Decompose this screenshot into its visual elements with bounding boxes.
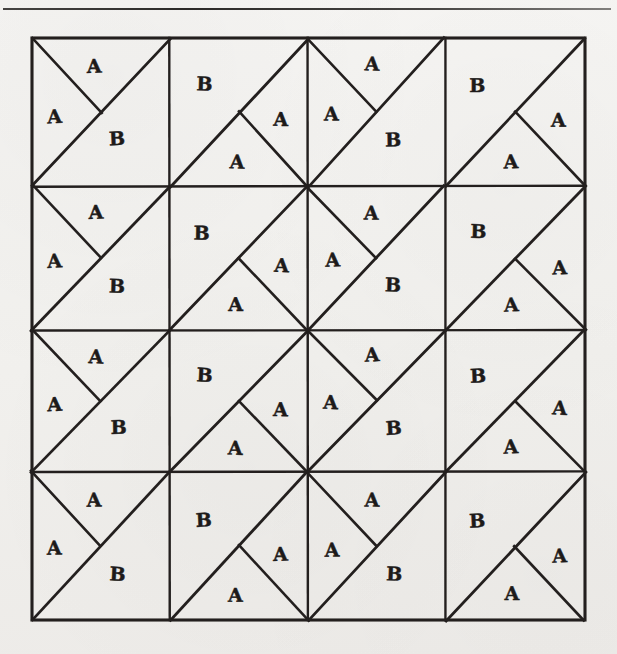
tile-spur xyxy=(515,259,586,330)
region-label-b: B xyxy=(196,363,213,386)
region-label-a: A xyxy=(550,109,566,131)
region-label-a: A xyxy=(551,256,568,279)
region-label-a: A xyxy=(323,102,339,124)
region-label-b: B xyxy=(109,274,126,296)
region-label-a: A xyxy=(324,248,341,270)
region-label-b: B xyxy=(386,562,403,585)
region-label-a: A xyxy=(502,435,519,458)
region-label-a: A xyxy=(87,201,104,223)
region-label-a: A xyxy=(227,436,244,458)
region-label-a: A xyxy=(504,582,520,604)
tile-spur xyxy=(239,258,308,331)
region-label-a: A xyxy=(227,584,243,606)
region-label-b: B xyxy=(195,508,212,531)
tile-spur xyxy=(307,38,376,111)
region-label-a: A xyxy=(363,343,380,366)
region-label-b: B xyxy=(470,220,487,242)
region-label-a: A xyxy=(85,489,101,511)
region-label-a: A xyxy=(502,150,519,172)
grid-line-horizontal xyxy=(32,471,585,472)
tiling-diagram: AABBAAAABBAAAABBAAAABBAAAABBAAAABBAAAABB… xyxy=(0,0,617,654)
region-label-b: B xyxy=(469,74,485,96)
region-label-a: A xyxy=(85,55,102,77)
region-label-b: B xyxy=(385,416,402,439)
region-label-a: A xyxy=(551,544,568,567)
region-label-a: A xyxy=(363,201,380,223)
region-label-a: A xyxy=(87,345,104,368)
region-label-b: B xyxy=(469,509,486,532)
region-label-a: A xyxy=(272,398,288,420)
region-label-a: A xyxy=(323,539,339,561)
region-label-a: A xyxy=(322,391,339,413)
region-label-a: A xyxy=(502,293,519,316)
region-label-b: B xyxy=(110,416,126,438)
region-label-a: A xyxy=(46,105,63,128)
region-label-b: B xyxy=(385,273,402,295)
region-label-a: A xyxy=(363,489,379,511)
region-label-b: B xyxy=(196,72,213,94)
tile-spur xyxy=(515,401,584,471)
region-label-a: A xyxy=(228,150,245,173)
region-label-a: A xyxy=(272,543,289,565)
grid-line-horizontal xyxy=(32,186,585,187)
region-label-a: A xyxy=(46,393,63,416)
region-label-a: A xyxy=(363,52,380,75)
region-label-a: A xyxy=(227,293,243,315)
region-label-a: A xyxy=(272,108,288,130)
region-label-b: B xyxy=(385,128,402,150)
region-label-b: B xyxy=(469,364,486,387)
region-label-b: B xyxy=(109,127,126,150)
region-label-a: A xyxy=(551,396,568,419)
tiling-figure: AABBAAAABBAAAABBAAAABBAAAABBAAAABBAAAABB… xyxy=(0,0,617,654)
region-label-a: A xyxy=(45,249,62,272)
region-label-a: A xyxy=(273,254,290,277)
region-label-b: B xyxy=(109,562,126,585)
region-label-b: B xyxy=(193,222,209,244)
tile-spur xyxy=(514,546,584,620)
region-label-a: A xyxy=(46,536,62,558)
